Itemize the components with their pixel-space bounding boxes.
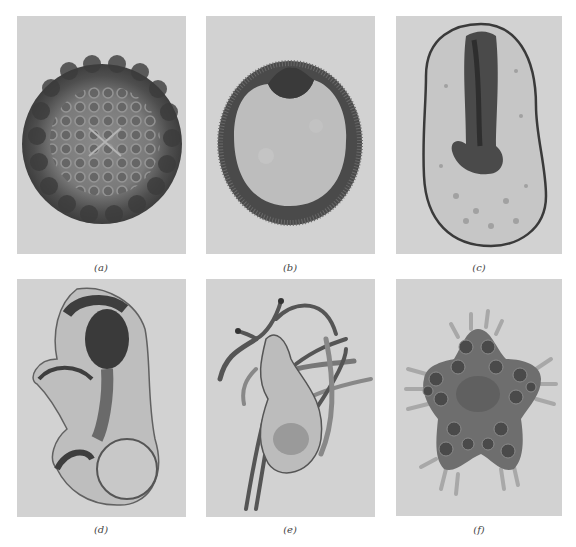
- caption-d: (d): [71, 524, 131, 536]
- caption-f: (f): [449, 524, 509, 536]
- panel-c: [396, 16, 562, 254]
- caption-b: (b): [260, 262, 320, 274]
- caption-c: (c): [449, 262, 509, 274]
- panel-b: [206, 16, 375, 254]
- panel-a: [17, 16, 186, 254]
- specimen-c-image: [396, 16, 562, 254]
- specimen-a-image: [17, 16, 186, 254]
- caption-a: (a): [71, 262, 131, 274]
- specimen-f-image: [396, 279, 562, 516]
- panel-e: [206, 279, 375, 517]
- panel-f: [396, 279, 562, 516]
- panel-d: [17, 279, 186, 517]
- specimen-d-image: [17, 279, 186, 517]
- figure-plate: (a) (b) (c): [0, 0, 576, 547]
- specimen-b-image: [206, 16, 375, 254]
- specimen-e-image: [206, 279, 375, 517]
- caption-e: (e): [260, 524, 320, 536]
